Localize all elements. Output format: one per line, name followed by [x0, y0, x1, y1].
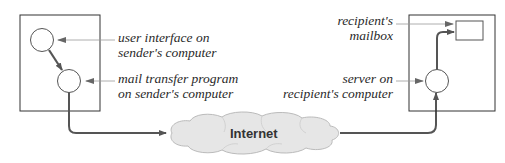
server-label: server on recipient's computer: [283, 71, 393, 101]
mailbox-label-line-2: mailbox: [337, 28, 393, 43]
server-label-line-2: recipient's computer: [283, 86, 393, 101]
server-to-mailbox-path: [437, 32, 454, 70]
mailbox-label-line-1: recipient's: [337, 13, 393, 28]
mailbox-label: recipient's mailbox: [337, 13, 393, 43]
recipient-mailbox: [456, 21, 483, 40]
mail-transfer-node: [58, 70, 81, 93]
internet-label: Internet: [230, 126, 278, 141]
ui-label: user interface on sender's computer: [118, 30, 217, 60]
ui-label-line-2: sender's computer: [118, 45, 217, 60]
ui-label-line-1: user interface on: [118, 30, 217, 45]
server-label-line-1: server on: [283, 71, 393, 86]
mta-label-line-1: mail transfer program: [118, 71, 238, 86]
mta-label-line-2: on sender's computer: [118, 86, 238, 101]
mta-label: mail transfer program on sender's comput…: [118, 71, 238, 101]
ui-to-mta-arrow: [49, 50, 62, 70]
user-interface-node: [31, 29, 54, 52]
sender-computer-box: [20, 15, 100, 111]
recipient-server-node: [426, 70, 449, 93]
